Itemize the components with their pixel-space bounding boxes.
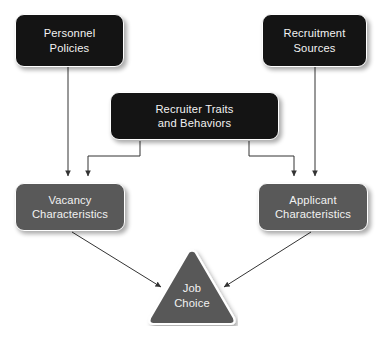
node-personnel-policies-label: Personnel Policies: [44, 26, 96, 55]
edge-recruiter-traits-to-applicant: [249, 141, 294, 176]
node-vacancy-characteristics-label: Vacancy Characteristics: [32, 193, 108, 222]
node-applicant-characteristics-label: Applicant Characteristics: [275, 193, 351, 222]
recruitment-job-choice-diagram: Personnel Policies Recruitment Sources R…: [0, 0, 381, 340]
node-personnel-policies[interactable]: Personnel Policies: [15, 14, 124, 67]
node-recruitment-sources[interactable]: Recruitment Sources: [262, 14, 367, 67]
node-recruitment-sources-label: Recruitment Sources: [284, 26, 346, 55]
node-vacancy-characteristics[interactable]: Vacancy Characteristics: [15, 183, 125, 231]
edge-recruiter-traits-to-vacancy: [88, 141, 140, 176]
node-applicant-characteristics[interactable]: Applicant Characteristics: [258, 183, 368, 231]
node-job-choice-label: Job Choice: [146, 281, 238, 310]
node-recruiter-traits[interactable]: Recruiter Traits and Behaviors: [110, 92, 279, 140]
node-recruiter-traits-label: Recruiter Traits and Behaviors: [155, 102, 233, 131]
node-job-choice[interactable]: Job Choice: [146, 248, 238, 326]
